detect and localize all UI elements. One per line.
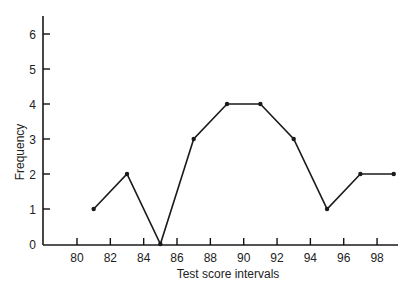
y-axis-label: Frequency [13, 124, 27, 181]
data-point-marker [358, 172, 362, 176]
data-point-marker [292, 137, 296, 141]
y-tick-label: 6 [29, 28, 36, 42]
x-tick-label: 84 [137, 251, 151, 265]
data-point-marker [325, 207, 329, 211]
y-axis-ticks: 0123456 [29, 28, 50, 252]
data-point-marker [258, 102, 262, 106]
data-point-marker [91, 207, 95, 211]
data-point-marker [392, 172, 396, 176]
x-tick-label: 88 [204, 251, 218, 265]
x-tick-label: 82 [104, 251, 118, 265]
x-tick-label: 98 [370, 251, 384, 265]
x-tick-label: 94 [304, 251, 318, 265]
x-tick-label: 92 [270, 251, 284, 265]
data-point-marker [158, 242, 162, 246]
y-tick-label: 1 [29, 203, 36, 217]
frequency-line [94, 104, 394, 244]
data-series [91, 102, 395, 246]
y-tick-label: 2 [29, 168, 36, 182]
y-tick-label: 4 [29, 98, 36, 112]
y-tick-label: 0 [29, 238, 36, 252]
data-point-marker [125, 172, 129, 176]
x-axis-label: Test score intervals [177, 267, 280, 281]
x-tick-label: 96 [337, 251, 351, 265]
x-axis-ticks: 80828486889092949698 [70, 238, 384, 265]
y-tick-label: 5 [29, 63, 36, 77]
data-point-marker [225, 102, 229, 106]
y-tick-label: 3 [29, 133, 36, 147]
x-tick-label: 80 [70, 251, 84, 265]
axes [43, 16, 398, 245]
frequency-polygon-chart: 0123456 80828486889092949698 Frequency T… [0, 0, 411, 295]
x-tick-label: 86 [170, 251, 184, 265]
data-point-marker [191, 137, 195, 141]
x-tick-label: 90 [237, 251, 251, 265]
